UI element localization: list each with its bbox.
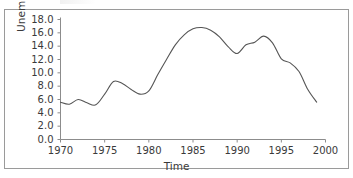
y-tick-label: 4.0 (24, 108, 54, 118)
y-tick-label: 8.0 (24, 81, 54, 91)
unemployment-rate-chart-figure: Unemployment Rate% Time 0.02.04.06.08.01… (0, 0, 353, 178)
x-tick-label: 1985 (173, 146, 213, 156)
x-tick-label: 1990 (217, 146, 257, 156)
y-tick-label: 12.0 (24, 55, 54, 65)
x-tick-label: 1995 (261, 146, 301, 156)
unemployment-rate-line (61, 27, 317, 105)
y-tick-label: 10.0 (24, 68, 54, 78)
x-tick-label: 1980 (129, 146, 169, 156)
y-tick-label: 18.0 (24, 15, 54, 25)
x-tick-label: 2000 (306, 146, 346, 156)
y-tick-label: 6.0 (24, 95, 54, 105)
y-tick-label: 0.0 (24, 135, 54, 145)
x-tick-label: 1970 (41, 146, 81, 156)
y-tick-label: 14.0 (24, 41, 54, 51)
x-tick-label: 1975 (85, 146, 125, 156)
y-tick-label: 16.0 (24, 28, 54, 38)
y-tick-label: 2.0 (24, 121, 54, 131)
